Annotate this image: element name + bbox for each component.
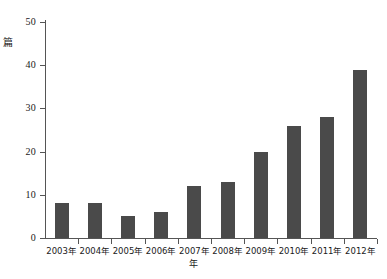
bar bbox=[121, 216, 135, 238]
bar bbox=[320, 117, 334, 238]
x-axis-title: 年 bbox=[0, 259, 387, 269]
bar bbox=[353, 70, 367, 238]
y-axis-tick bbox=[40, 152, 45, 153]
x-axis-tick-label: 2003年 bbox=[46, 246, 77, 256]
bar bbox=[287, 126, 301, 238]
bar bbox=[221, 182, 235, 238]
y-axis-tick-label: 50 bbox=[26, 17, 36, 27]
y-axis-tick bbox=[40, 22, 45, 23]
y-axis-tick bbox=[40, 65, 45, 66]
bar bbox=[254, 152, 268, 238]
y-axis-tick bbox=[40, 238, 45, 239]
bar bbox=[154, 212, 168, 238]
x-axis-tick-label: 2005年 bbox=[113, 246, 144, 256]
y-axis-unit-label: 篇 bbox=[3, 38, 13, 48]
y-axis-tick bbox=[40, 108, 45, 109]
y-axis-tick-label: 20 bbox=[26, 147, 36, 157]
x-axis-tick bbox=[145, 239, 146, 244]
x-axis-tick bbox=[277, 239, 278, 244]
y-axis-tick-label: 40 bbox=[26, 60, 36, 70]
bar-chart: 篇 01020304050 2003年2004年2005年2006年2007年2… bbox=[0, 0, 387, 279]
x-axis-tick-label: 2009年 bbox=[245, 246, 276, 256]
x-axis-tick-label: 2004年 bbox=[79, 246, 110, 256]
y-axis-tick-label: 10 bbox=[26, 190, 36, 200]
x-axis-tick bbox=[111, 239, 112, 244]
y-axis-tick bbox=[40, 195, 45, 196]
bar bbox=[55, 203, 69, 238]
x-axis-tick-label: 2010年 bbox=[279, 246, 310, 256]
x-axis-tick bbox=[344, 239, 345, 244]
y-axis-line bbox=[45, 20, 46, 239]
x-axis-tick-label: 2012年 bbox=[345, 246, 376, 256]
x-axis-tick bbox=[244, 239, 245, 244]
x-axis-tick-label: 2011年 bbox=[312, 246, 343, 256]
y-axis-tick-label: 30 bbox=[26, 103, 36, 113]
x-axis-tick bbox=[311, 239, 312, 244]
x-axis-tick bbox=[377, 239, 378, 244]
bar bbox=[187, 186, 201, 238]
x-axis-tick-label: 2007年 bbox=[179, 246, 210, 256]
x-axis-tick-label: 2006年 bbox=[146, 246, 177, 256]
bar bbox=[88, 203, 102, 238]
x-axis-tick bbox=[78, 239, 79, 244]
x-axis-tick bbox=[211, 239, 212, 244]
x-axis-tick-label: 2008年 bbox=[212, 246, 243, 256]
x-axis-tick bbox=[178, 239, 179, 244]
y-axis-tick-label: 0 bbox=[31, 233, 36, 243]
